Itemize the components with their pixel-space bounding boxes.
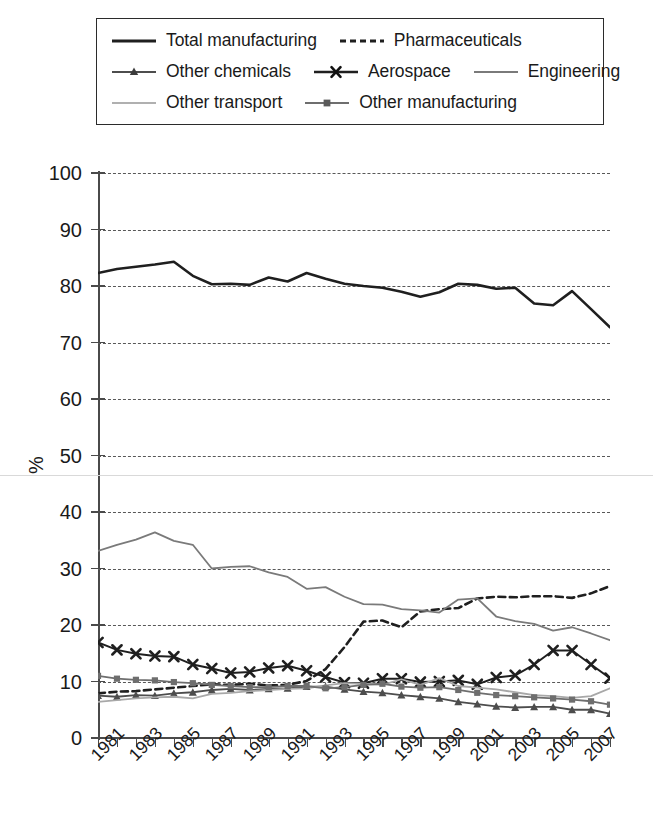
series-marker — [455, 687, 461, 693]
y-tick-label: 80 — [26, 276, 82, 296]
series-marker — [190, 680, 196, 686]
legend-swatch-other-manufacturing — [304, 96, 350, 110]
legend-entry-other-manufacturing: Other manufacturing — [304, 94, 517, 112]
series-line — [98, 532, 610, 640]
legend-label-pharmaceuticals: Pharmaceuticals — [394, 32, 522, 50]
series-marker — [493, 692, 499, 698]
series-pharmaceuticals — [98, 586, 610, 693]
series-marker — [303, 683, 309, 689]
legend-label-total-manufacturing: Total manufacturing — [166, 32, 317, 50]
legend-entry-pharmaceuticals: Pharmaceuticals — [339, 32, 522, 50]
legend-swatch-other-transport — [111, 96, 157, 110]
series-marker — [322, 685, 328, 691]
series-marker — [247, 684, 253, 690]
y-tick-label: 20 — [26, 615, 82, 635]
series-marker — [586, 660, 595, 669]
legend-entry-other-chemicals: Other chemicals — [111, 63, 291, 81]
y-tick-label: 10 — [26, 672, 82, 692]
series-marker — [605, 674, 610, 683]
legend-row: Other chemicals Aerospace Engineering — [111, 56, 593, 87]
legend-entry-other-transport: Other transport — [111, 94, 282, 112]
legend-swatch-engineering — [473, 65, 519, 79]
legend-row: Total manufacturing Pharmaceuticals — [111, 25, 593, 56]
chart-plot-area — [98, 173, 610, 738]
y-tick-label: 70 — [26, 333, 82, 353]
series-marker — [266, 684, 272, 690]
legend-label-other-manufacturing: Other manufacturing — [359, 94, 517, 112]
legend-label-other-transport: Other transport — [166, 94, 282, 112]
series-marker — [436, 684, 442, 690]
legend-entry-aerospace: Aerospace — [313, 63, 451, 81]
series-total-manufacturing — [98, 262, 610, 328]
legend-swatch-aerospace — [313, 65, 359, 79]
series-marker — [417, 685, 423, 691]
series-marker — [285, 683, 291, 689]
series-line — [98, 586, 610, 693]
series-marker — [398, 683, 404, 689]
y-tick-label: 90 — [26, 220, 82, 240]
figure-root: Total manufacturing Pharmaceuticals Othe… — [0, 0, 653, 827]
series-marker — [360, 682, 366, 688]
series-marker — [152, 677, 158, 683]
y-tick-label: 60 — [26, 389, 82, 409]
y-tick-label: 40 — [26, 502, 82, 522]
y-tick-label: 30 — [26, 559, 82, 579]
legend-label-engineering: Engineering — [528, 63, 620, 81]
y-tick-label: 0 — [26, 728, 82, 748]
series-line — [98, 262, 610, 328]
legend-row: Other transport Other manufacturing — [111, 87, 593, 118]
legend-entry-total-manufacturing: Total manufacturing — [111, 32, 317, 50]
series-marker — [171, 679, 177, 685]
legend-swatch-pharmaceuticals — [339, 34, 385, 48]
series-marker — [98, 673, 101, 679]
legend-swatch-total-manufacturing — [111, 34, 157, 48]
legend-entry-engineering: Engineering — [473, 63, 620, 81]
series-marker — [550, 695, 556, 701]
series-engineering — [98, 532, 610, 640]
series-marker — [588, 698, 594, 704]
y-tick-label: 50 — [26, 446, 82, 466]
series-marker — [341, 684, 347, 690]
series-marker — [114, 676, 120, 682]
y-tick-label: 100 — [26, 163, 82, 183]
legend-label-other-chemicals: Other chemicals — [166, 63, 291, 81]
series-marker — [379, 681, 385, 687]
legend-label-aerospace: Aerospace — [368, 63, 451, 81]
legend-swatch-other-chemicals — [111, 65, 157, 79]
series-marker — [228, 683, 234, 689]
series-marker — [209, 682, 215, 688]
series-marker — [531, 694, 537, 700]
series-marker — [512, 693, 518, 699]
chart-legend: Total manufacturing Pharmaceuticals Othe… — [96, 18, 604, 125]
series-marker — [607, 702, 610, 708]
series-marker — [474, 690, 480, 696]
series-marker — [569, 696, 575, 702]
series-marker — [133, 677, 139, 683]
series-marker — [530, 660, 539, 669]
